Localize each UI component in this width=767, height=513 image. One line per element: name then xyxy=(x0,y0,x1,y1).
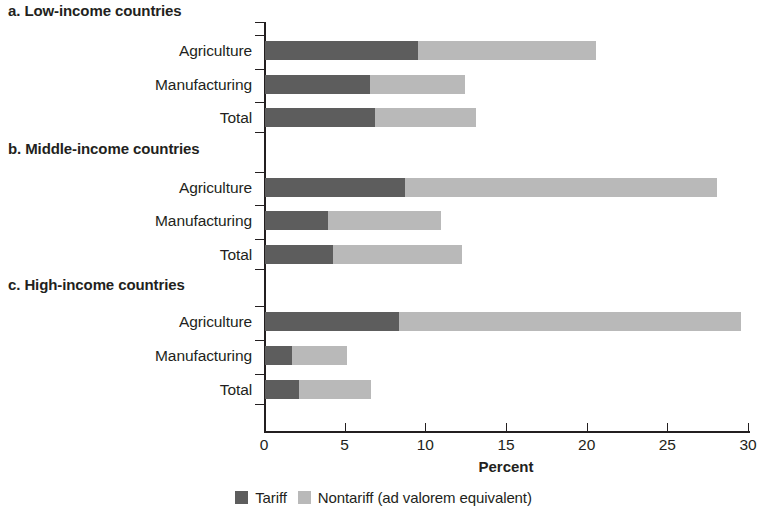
y-axis-tick xyxy=(255,404,264,405)
bar-3-manufacturing xyxy=(265,346,347,365)
panel-title-3: c. High-income countries xyxy=(8,276,185,293)
bar-segment-tariff xyxy=(265,211,328,230)
category-label-wrap: Manufacturing xyxy=(0,212,252,230)
legend-label: Nontariff (ad valorem equivalent) xyxy=(318,489,532,506)
legend-item-nontariff[interactable]: Nontariff (ad valorem equivalent) xyxy=(298,489,532,506)
panel-title-1: a. Low-income countries xyxy=(8,2,182,19)
x-tick-label-10: 10 xyxy=(405,436,445,454)
y-axis-tick xyxy=(255,35,264,36)
y-axis-tick xyxy=(255,102,264,103)
category-label-wrap: Agriculture xyxy=(0,179,252,197)
bar-segment-tariff xyxy=(265,108,375,127)
category-label-total: Total xyxy=(0,381,252,399)
y-axis-tick xyxy=(255,340,264,341)
y-axis-tick xyxy=(255,172,264,173)
bar-segment-nontariff xyxy=(333,245,462,264)
y-axis-tick xyxy=(255,269,264,270)
x-tick-label-15: 15 xyxy=(486,436,526,454)
category-label-wrap: Total xyxy=(0,381,252,399)
bar-segment-nontariff xyxy=(370,75,465,94)
x-tick-label-30: 30 xyxy=(728,436,767,454)
x-axis-tick xyxy=(748,423,749,431)
x-axis-tick xyxy=(587,423,588,431)
bar-segment-tariff xyxy=(265,178,405,197)
x-tick-label-20: 20 xyxy=(567,436,607,454)
x-tick-label-0: 0 xyxy=(244,436,284,454)
bar-3-agriculture xyxy=(265,312,741,331)
bar-2-manufacturing xyxy=(265,211,441,230)
x-tick-label-5: 5 xyxy=(325,436,365,454)
bar-2-total xyxy=(265,245,462,264)
y-axis-tick xyxy=(255,239,264,240)
category-label-manufacturing: Manufacturing xyxy=(0,212,252,230)
category-label-wrap: Total xyxy=(0,109,252,127)
bar-segment-nontariff xyxy=(399,312,741,331)
x-tick-label-25: 25 xyxy=(647,436,687,454)
stacked-bar-chart: a. Low-income countriesAgricultureManufa… xyxy=(0,0,767,513)
category-label-wrap: Agriculture xyxy=(0,42,252,60)
bar-segment-nontariff xyxy=(375,108,477,127)
bar-segment-nontariff xyxy=(418,41,595,60)
bar-segment-tariff xyxy=(265,380,299,399)
x-axis-line xyxy=(264,431,750,433)
category-label-wrap: Manufacturing xyxy=(0,347,252,365)
bar-3-total xyxy=(265,380,371,399)
legend-swatch-icon-tariff xyxy=(235,491,248,504)
y-axis-tick xyxy=(255,22,264,23)
bar-segment-nontariff xyxy=(299,380,372,399)
category-label-total: Total xyxy=(0,246,252,264)
panel-title-2: b. Middle-income countries xyxy=(8,140,200,157)
category-label-wrap: Agriculture xyxy=(0,313,252,331)
category-label-wrap: Total xyxy=(0,246,252,264)
x-axis-tick xyxy=(345,423,346,431)
y-axis-tick xyxy=(255,205,264,206)
bar-segment-nontariff xyxy=(328,211,441,230)
x-axis-tick xyxy=(667,423,668,431)
bar-segment-nontariff xyxy=(405,178,716,197)
y-axis-tick xyxy=(255,374,264,375)
category-label-agriculture: Agriculture xyxy=(0,42,252,60)
legend-label: Tariff xyxy=(255,489,287,506)
bar-segment-tariff xyxy=(265,41,418,60)
x-axis-tick xyxy=(425,423,426,431)
bar-2-agriculture xyxy=(265,178,717,197)
category-label-agriculture: Agriculture xyxy=(0,179,252,197)
bar-1-agriculture xyxy=(265,41,596,60)
y-axis-tick xyxy=(255,132,264,133)
chart-legend: TariffNontariff (ad valorem equivalent) xyxy=(0,489,767,506)
bar-segment-tariff xyxy=(265,312,399,331)
bar-segment-tariff xyxy=(265,245,333,264)
category-label-agriculture: Agriculture xyxy=(0,313,252,331)
x-axis-tick xyxy=(506,423,507,431)
y-axis-tick xyxy=(255,306,264,307)
x-axis-tick xyxy=(264,423,265,431)
category-label-total: Total xyxy=(0,109,252,127)
category-label-manufacturing: Manufacturing xyxy=(0,76,252,94)
bar-segment-tariff xyxy=(265,75,370,94)
bar-segment-nontariff xyxy=(292,346,347,365)
bar-segment-tariff xyxy=(265,346,292,365)
category-label-manufacturing: Manufacturing xyxy=(0,347,252,365)
legend-item-tariff[interactable]: Tariff xyxy=(235,489,287,506)
bar-1-total xyxy=(265,108,476,127)
x-axis-title: Percent xyxy=(406,458,606,475)
category-label-wrap: Manufacturing xyxy=(0,76,252,94)
bar-1-manufacturing xyxy=(265,75,465,94)
y-axis-tick xyxy=(255,69,264,70)
legend-swatch-icon-nontariff xyxy=(298,491,311,504)
